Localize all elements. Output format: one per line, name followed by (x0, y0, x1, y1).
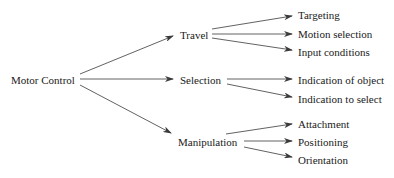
edge-selection-indsel (227, 84, 292, 97)
node-indication-of-object: Indication of object (298, 74, 384, 86)
edge-travel-targeting (212, 16, 292, 29)
edge-travel-input (212, 38, 292, 50)
edge-motor-travel (80, 36, 173, 74)
node-travel: Travel (180, 29, 208, 41)
node-selection: Selection (180, 74, 221, 86)
node-orientation: Orientation (298, 154, 348, 166)
node-targeting: Targeting (298, 9, 340, 21)
node-positioning: Positioning (298, 136, 348, 148)
node-motion-selection: Motion selection (298, 28, 372, 40)
edge-manip-orient (244, 147, 292, 157)
edge-motor-manipulation (80, 85, 171, 133)
edge-manip-attach (226, 124, 292, 134)
node-indication-to-select: Indication to select (298, 93, 382, 105)
node-input-conditions: Input conditions (298, 46, 370, 58)
node-attachment: Attachment (298, 118, 349, 130)
edges (0, 0, 394, 178)
node-manipulation: Manipulation (178, 136, 237, 148)
node-motor-control: Motor Control (11, 74, 75, 86)
